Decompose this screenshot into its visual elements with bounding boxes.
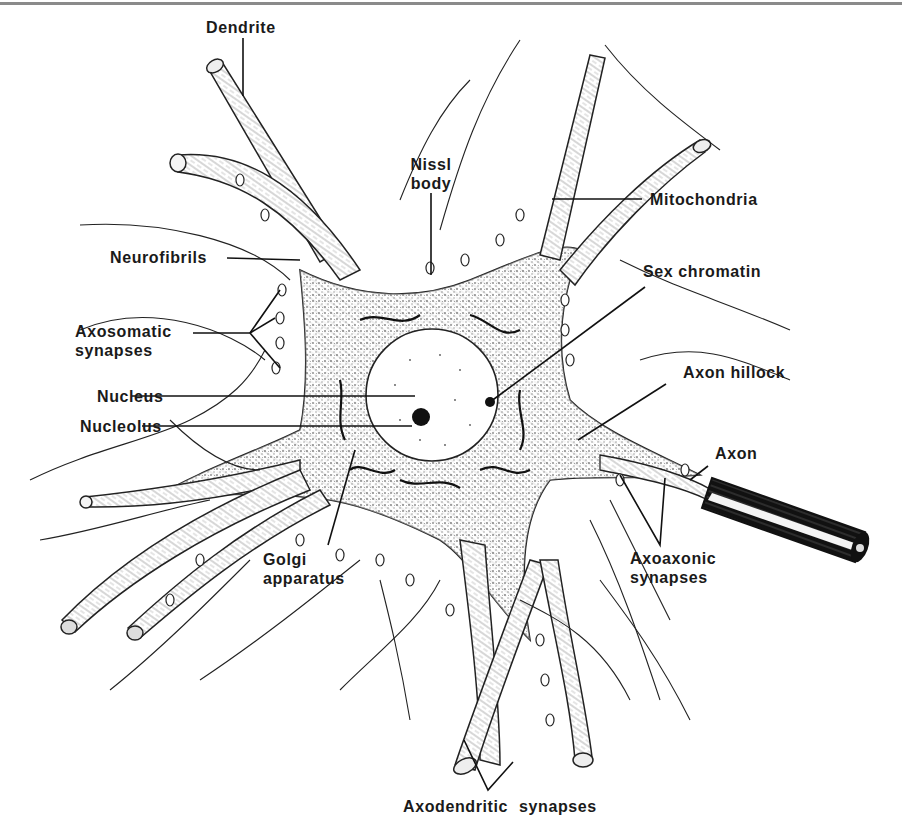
- label-axosomatic-line2: synapses: [75, 341, 172, 360]
- label-axoaxonic-synapses: Axoaxonic synapses: [630, 549, 716, 587]
- label-axosomatic-line1: Axosomatic: [75, 322, 172, 341]
- label-golgi-line1: Golgi: [263, 550, 345, 569]
- label-nucleus: Nucleus: [97, 387, 163, 406]
- label-golgi-apparatus: Golgi apparatus: [263, 550, 345, 588]
- label-nissl-body: Nissl body: [398, 155, 464, 193]
- label-axoaxonic-line1: Axoaxonic: [630, 549, 716, 568]
- label-axon: Axon: [715, 444, 757, 463]
- label-golgi-line2: apparatus: [263, 569, 345, 588]
- label-neurofibrils: Neurofibrils: [110, 248, 207, 267]
- label-axoaxonic-line2: synapses: [630, 568, 716, 587]
- label-axon-hillock: Axon hillock: [683, 363, 785, 382]
- label-dendrite: Dendrite: [206, 18, 276, 37]
- label-nissl-line1: Nissl: [398, 155, 464, 174]
- label-axosomatic-synapses: Axosomatic synapses: [75, 322, 172, 360]
- label-axodendritic-synapses: Axodendritic synapses: [403, 797, 597, 816]
- label-mitochondria: Mitochondria: [650, 190, 758, 209]
- label-nucleolus: Nucleolus: [80, 417, 162, 436]
- label-sex-chromatin: Sex chromatin: [643, 262, 761, 281]
- nucleus: [366, 329, 498, 461]
- nucleolus-dot: [412, 408, 430, 426]
- label-nissl-line2: body: [398, 174, 464, 193]
